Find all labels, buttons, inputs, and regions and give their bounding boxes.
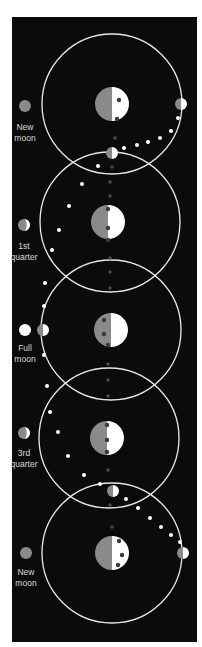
- orbit-moon-2: [106, 147, 118, 159]
- moon-path-dot: [159, 525, 163, 529]
- axis-dot: [108, 503, 112, 507]
- axis-dot: [108, 194, 112, 198]
- moon-path-dot: [43, 281, 47, 285]
- phase-label: Newmoon: [7, 122, 43, 144]
- phase-label: 3rdquarter: [6, 448, 42, 470]
- moon-path-dot: [42, 304, 46, 308]
- moon-path-dot: [56, 430, 60, 434]
- orbit-moon-4: [107, 485, 119, 497]
- earth-location-dot: [116, 563, 120, 567]
- phase-label-line2: quarter: [6, 459, 42, 470]
- moon-path-dot: [96, 164, 100, 168]
- earth-location-dot: [106, 207, 110, 211]
- new-moon-icon: [20, 547, 32, 559]
- earth-location-dot: [105, 450, 109, 454]
- moon-path-dot: [135, 143, 139, 147]
- earth-3: [94, 313, 128, 347]
- axis-dot: [108, 256, 112, 260]
- phase-label: Fullmoon: [7, 343, 43, 365]
- earth-location-dot: [105, 438, 109, 442]
- earth-location-dot: [117, 98, 121, 102]
- phase-label-line2: quarter: [6, 252, 42, 263]
- axis-dot: [110, 165, 114, 169]
- full-moon-icon: [19, 324, 31, 336]
- moon-path-dot: [48, 410, 52, 414]
- earth-location-dot: [115, 117, 119, 121]
- moon-phases-diagram: [0, 0, 202, 647]
- moon-path-dot: [45, 384, 49, 388]
- phase-label-line1: 3rd: [6, 448, 42, 459]
- phase-label-line1: 1st: [6, 241, 42, 252]
- earth-location-dot: [120, 553, 124, 557]
- moon-path-dot: [148, 516, 152, 520]
- moon-path-dot: [176, 116, 180, 120]
- moon-path-dot: [169, 533, 173, 537]
- earth-location-dot: [102, 318, 106, 322]
- phase-label: Newmoon: [8, 567, 44, 589]
- axis-dot: [106, 468, 110, 472]
- orbit-moon-3: [37, 324, 49, 336]
- moon-path-dot: [122, 146, 126, 150]
- axis-dot: [108, 270, 112, 274]
- moon-path-dot: [82, 473, 86, 477]
- earth-location-dot: [106, 226, 110, 230]
- earth-5: [95, 536, 129, 570]
- phase-label-line1: New: [8, 567, 44, 578]
- moon-path-dot: [66, 454, 70, 458]
- earth-location-dot: [102, 332, 106, 336]
- earth-location-dot: [117, 539, 121, 543]
- axis-dot: [113, 136, 117, 140]
- phase-label: 1stquarter: [6, 241, 42, 263]
- orbit-moon-5: [177, 547, 189, 559]
- phase-label-line2: moon: [7, 354, 43, 365]
- axis-dot: [106, 362, 110, 366]
- phase-label-line1: New: [7, 122, 43, 133]
- axis-dot: [108, 286, 112, 290]
- moon-path-dot: [146, 140, 150, 144]
- earth-1: [95, 87, 129, 121]
- moon-path-dot: [178, 540, 182, 544]
- orbit-moon-1: [175, 98, 187, 110]
- axis-dot: [108, 180, 112, 184]
- phase-label-line1: Full: [7, 343, 43, 354]
- moon-path-dot: [158, 136, 162, 140]
- moon-path-dot: [80, 182, 84, 186]
- moon-path-dot: [50, 248, 54, 252]
- phase-label-line2: moon: [7, 133, 43, 144]
- moon-path-dot: [57, 228, 61, 232]
- axis-dot: [106, 394, 110, 398]
- earth-location-dot: [106, 238, 110, 242]
- moon-path-dot: [169, 129, 173, 133]
- moon-path-dot: [67, 204, 71, 208]
- moon-path-dot: [98, 482, 102, 486]
- moon-path-dot: [124, 497, 128, 501]
- axis-dot: [110, 525, 114, 529]
- new-moon-icon: [19, 100, 31, 112]
- earth-location-dot: [106, 343, 110, 347]
- axis-dot: [106, 378, 110, 382]
- earth-location-dot: [105, 423, 109, 427]
- phase-label-line2: moon: [8, 578, 44, 589]
- moon-path-dot: [136, 506, 140, 510]
